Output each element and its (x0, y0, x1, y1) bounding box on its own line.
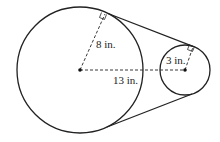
small-center-point (183, 68, 187, 72)
diagram-canvas: 8 in. 3 in. 13 in. (0, 0, 220, 142)
small-radius-label: 3 in. (166, 54, 186, 66)
bottom-tangent-line (107, 94, 192, 127)
center-distance-label: 13 in. (113, 74, 138, 86)
top-tangent-line (108, 14, 193, 47)
large-center-point (78, 68, 82, 72)
large-radius-label: 8 in. (96, 38, 116, 50)
belt-pulley-diagram: 8 in. 3 in. 13 in. (0, 0, 220, 142)
